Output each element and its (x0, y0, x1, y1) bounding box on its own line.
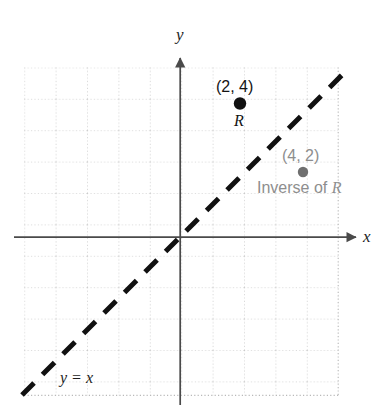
inverse-point-name-label: Inverse of R (257, 180, 341, 196)
coordinate-plane-figure: y x (2, 4) R (4, 2) Inverse of R y = x (0, 0, 385, 419)
point-r (234, 97, 246, 109)
graph-svg (0, 0, 385, 419)
x-axis-label: x (363, 228, 371, 245)
inverse-name-symbol: R (332, 179, 342, 196)
point-r-name-label: R (234, 113, 244, 129)
line-equation-label: y = x (60, 370, 93, 386)
point-inverse-of-r (298, 167, 308, 177)
y-axis-label: y (176, 26, 184, 43)
inverse-point-coordinates-label: (4, 2) (282, 148, 319, 164)
point-r-coordinates-label: (2, 4) (216, 79, 253, 95)
inverse-name-prefix: Inverse of (257, 179, 332, 196)
